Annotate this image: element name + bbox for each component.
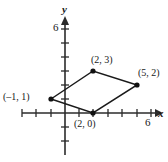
point-label-2-0: (2, 0)	[74, 119, 96, 129]
parallelogram-shape	[51, 71, 137, 113]
vertex-dot-2-3	[90, 68, 95, 73]
vertex-dot-2-0	[90, 110, 95, 115]
x-tick-label-6: 6	[145, 117, 151, 128]
y-axis-label: y	[62, 4, 67, 15]
point-label-neg1-1: (–1, 1)	[3, 92, 30, 102]
x-axis-label: x	[158, 108, 164, 119]
plot-canvas	[0, 0, 168, 162]
coordinate-plane-figure: y x 6 6 (2, 3) (5, 2) (–1, 1) (2, 0)	[0, 0, 168, 162]
point-label-2-3: (2, 3)	[91, 55, 113, 65]
point-label-5-2: (5, 2)	[138, 68, 160, 78]
vertex-dot-neg1-1	[48, 96, 53, 101]
y-tick-label-6: 6	[53, 22, 59, 33]
vertex-dot-5-2	[134, 82, 139, 87]
y-axis-arrow-icon	[61, 16, 69, 25]
